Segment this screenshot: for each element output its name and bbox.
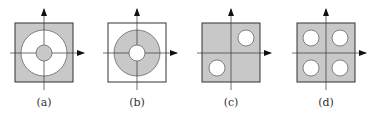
hole-quadrant-1 xyxy=(238,30,254,46)
panel-c: (c) xyxy=(197,9,271,109)
hole-quadrant-3 xyxy=(303,60,319,76)
panel-a: (a) xyxy=(10,9,84,109)
white-center-hole xyxy=(129,45,145,61)
figure-canvas: (a) (b) (c) (d) xyxy=(0,0,378,116)
panel-d: (d) xyxy=(292,9,366,109)
panel-label: (c) xyxy=(224,96,239,109)
hole-quadrant-1 xyxy=(332,30,348,46)
panel-label: (a) xyxy=(36,96,51,109)
hole-quadrant-3 xyxy=(209,60,225,76)
shaded-center-disk xyxy=(36,45,52,61)
hole-quadrant-2 xyxy=(303,30,319,46)
hole-quadrant-4 xyxy=(332,60,348,76)
panel-b: (b) xyxy=(103,9,177,109)
panel-label: (b) xyxy=(129,96,145,109)
panel-label: (d) xyxy=(318,96,334,109)
